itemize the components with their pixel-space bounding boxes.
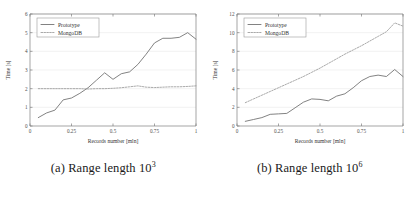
chart-a-canvas: 012345600.250.50.751Records number [mln]… (0, 0, 206, 160)
chart-b: 02468101200.250.50.751Records number [ml… (207, 0, 413, 160)
x-tick-label: 0.75 (150, 128, 159, 134)
caption-b-prefix: (b) (257, 161, 272, 175)
legend-label-mongodb: MongoDB (58, 30, 82, 36)
caption-a: (a) Range length 103 (51, 160, 156, 176)
y-tick-label: 2 (232, 104, 235, 110)
y-tick-label: 3 (25, 67, 28, 73)
y-tick-label: 4 (25, 48, 28, 54)
series-line-prototype (245, 70, 403, 122)
series-line-prototype (39, 33, 197, 118)
x-tick-label: 0.5 (317, 128, 324, 134)
x-tick-label: 1 (195, 128, 198, 134)
x-axis-title: Records number [mln] (88, 138, 139, 144)
caption-a-text: Range length 10 (68, 161, 151, 175)
x-tick-label: 1 (401, 128, 404, 134)
y-tick-label: 0 (232, 123, 235, 129)
legend-label-prototype: Prototype (265, 22, 287, 28)
y-axis-title: Time [s] (5, 60, 11, 79)
chart-b-canvas: 02468101200.250.50.751Records number [ml… (207, 0, 413, 160)
y-tick-label: 8 (232, 48, 235, 54)
chart-a: 012345600.250.50.751Records number [mln]… (0, 0, 206, 160)
caption-b-text: Range length 10 (275, 161, 358, 175)
subfigure-a: 012345600.250.50.751Records number [mln]… (0, 0, 207, 202)
y-tick-label: 12 (229, 11, 235, 17)
x-tick-label: 0 (235, 128, 238, 134)
x-tick-label: 0 (29, 128, 32, 134)
x-axis-title: Records number [mln] (294, 138, 345, 144)
legend-label-mongodb: MongoDB (265, 30, 289, 36)
subfigure-b: 02468101200.250.50.751Records number [ml… (207, 0, 413, 202)
caption-b: (b) Range length 106 (257, 160, 363, 176)
caption-a-exponent: 3 (152, 160, 156, 169)
y-axis-title: Time [s] (212, 60, 218, 79)
x-tick-label: 0.25 (67, 128, 76, 134)
y-tick-label: 0 (25, 123, 28, 129)
y-tick-label: 6 (232, 67, 235, 73)
caption-b-exponent: 6 (358, 160, 362, 169)
x-tick-label: 0.5 (110, 128, 117, 134)
y-tick-label: 5 (25, 30, 28, 36)
y-tick-label: 6 (25, 11, 28, 17)
y-tick-label: 10 (229, 30, 235, 36)
caption-a-prefix: (a) (51, 161, 65, 175)
y-tick-label: 4 (232, 86, 235, 92)
x-tick-label: 0.25 (274, 128, 283, 134)
y-tick-label: 2 (25, 86, 28, 92)
legend-label-prototype: Prototype (58, 22, 80, 28)
x-tick-label: 0.75 (357, 128, 366, 134)
y-tick-label: 1 (25, 104, 28, 110)
figure-row: 012345600.250.50.751Records number [mln]… (0, 0, 413, 202)
